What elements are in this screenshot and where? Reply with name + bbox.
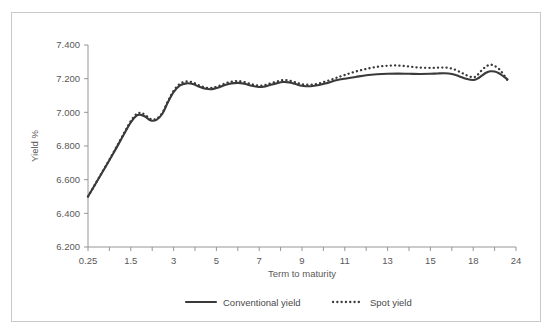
y-tick-label: 6.600 — [56, 174, 80, 185]
series-paths — [88, 65, 507, 197]
legend-label: Conventional yield — [223, 297, 301, 308]
x-tick-label: 3 — [171, 255, 176, 266]
x-axis-title: Term to maturity — [268, 268, 336, 279]
x-tick-label: 11 — [340, 255, 350, 266]
y-tick-label: 7.200 — [56, 73, 80, 84]
chart-svg: 6.2006.4006.6006.8007.0007.2007.400 0.25… — [0, 0, 554, 334]
x-tick-label: 18 — [468, 255, 479, 266]
y-axis-title: Yield % — [29, 130, 40, 162]
x-axis: 0.251.535791113151824 — [79, 247, 522, 266]
x-tick-label: 1.5 — [124, 255, 137, 266]
x-tick-label: 7 — [257, 255, 262, 266]
y-tick-label: 7.400 — [56, 39, 80, 50]
x-tick-label: 9 — [299, 255, 304, 266]
y-tick-label: 6.800 — [56, 140, 80, 151]
y-axis: 6.2006.4006.6006.8007.0007.2007.400 — [56, 39, 88, 252]
x-tick-label: 0.25 — [79, 255, 98, 266]
series-solid — [88, 71, 507, 196]
x-tick-label: 13 — [382, 255, 393, 266]
x-tick-label: 15 — [425, 255, 436, 266]
yield-curve-chart: 6.2006.4006.6006.8007.0007.2007.400 0.25… — [0, 0, 554, 334]
chart-legend: Conventional yieldSpot yield — [186, 297, 412, 308]
x-tick-label: 5 — [214, 255, 219, 266]
legend-label: Spot yield — [370, 297, 412, 308]
y-tick-label: 6.200 — [56, 241, 80, 252]
y-tick-label: 6.400 — [56, 208, 80, 219]
y-tick-label: 7.000 — [56, 107, 80, 118]
x-tick-label: 24 — [511, 255, 522, 266]
